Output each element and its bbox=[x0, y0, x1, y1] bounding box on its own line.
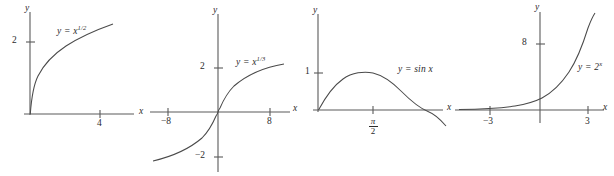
panel-sqrt-x-axis-label: x bbox=[139, 106, 143, 116]
panel-cbrt-xtick-label-8: 8 bbox=[267, 116, 272, 126]
pi-numerator: π bbox=[366, 117, 380, 126]
panel-sin-y-axis-label: y bbox=[313, 5, 317, 15]
panel-exp-xtick-label-3: 3 bbox=[585, 116, 590, 126]
panel-sqrt-xtick-label-4: 4 bbox=[97, 118, 102, 128]
panel-exp-x-axis-label: x bbox=[603, 102, 607, 112]
panel-cbrt-curve-label-base: y = x bbox=[236, 57, 257, 67]
panel-exp-curve-label-base: y = 2 bbox=[578, 62, 599, 72]
graphs-svg bbox=[0, 0, 614, 176]
panel-sin-ytick-label-1: 1 bbox=[305, 66, 310, 76]
panel-cbrt-ytick-label-neg2: −2 bbox=[195, 150, 205, 160]
panel-sqrt-curve-label: y = x1/2 bbox=[57, 26, 87, 36]
panel-sin-curve-label: y = sin x bbox=[398, 64, 433, 74]
panel-cbrt-ytick-label-2: 2 bbox=[200, 61, 205, 71]
panel-sqrt-y-axis-label: y bbox=[25, 3, 29, 13]
panel-sin-curve bbox=[319, 72, 447, 126]
two-denominator: 2 bbox=[366, 127, 380, 136]
panel-cbrt-y-axis-label: y bbox=[213, 5, 217, 15]
panel-sin-x-axis-label: x bbox=[447, 102, 451, 112]
panel-exp-ytick-label-8: 8 bbox=[522, 37, 527, 47]
panel-cbrt-curve-label: y = x1/3 bbox=[236, 57, 266, 67]
panel-cbrt-x-axis-label: x bbox=[293, 103, 297, 113]
panel-exp-y-axis-label: y bbox=[535, 2, 539, 12]
panel-exp-curve-label: y = 2x bbox=[578, 62, 602, 72]
panel-sqrt-curve-label-base: y = x bbox=[57, 26, 78, 36]
panel-exp-xtick-label-neg3: −3 bbox=[483, 116, 493, 126]
panel-exp-curve bbox=[459, 13, 595, 110]
panel-cbrt-xtick-label-neg8: −8 bbox=[161, 116, 171, 126]
panel-sqrt-ytick-label-2: 2 bbox=[12, 35, 17, 45]
panel-exp-curve-label-exponent: x bbox=[599, 60, 602, 67]
panel-sqrt-curve-label-exponent: 1/2 bbox=[78, 24, 87, 31]
panel-cbrt-curve-label-exponent: 1/3 bbox=[257, 55, 266, 62]
panel-sin-xtick-label-pi-over-2: π 2 bbox=[366, 117, 380, 136]
four-function-graphs-figure: y x 2 4 y = x1/2 y x −8 8 2 −2 y = x1/3 … bbox=[0, 0, 614, 176]
panel-sqrt-curve bbox=[30, 24, 113, 114]
panel-cbrt-axes bbox=[150, 14, 290, 172]
